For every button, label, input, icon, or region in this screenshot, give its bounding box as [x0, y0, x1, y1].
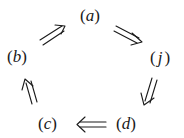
double-arrow-c-to-b-icon — [22, 79, 37, 104]
double-arrow-a-to-j-icon — [114, 26, 142, 45]
double-arrow-b-to-a-icon — [40, 25, 65, 45]
double-arrow-d-to-c-icon — [77, 117, 106, 132]
double-arrow-j-to-d-icon — [141, 78, 157, 105]
edges-layer — [0, 0, 184, 138]
